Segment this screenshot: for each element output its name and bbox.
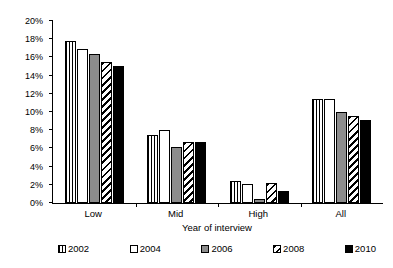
bar-2004-low — [77, 49, 88, 203]
bar-2006-all — [336, 112, 347, 203]
bar-2002-low — [65, 41, 76, 203]
x-axis-title: Year of interview — [52, 221, 382, 234]
bar-group — [53, 21, 136, 203]
y-axis-tick-label: 10% — [9, 108, 43, 117]
bar-2006-high — [254, 199, 265, 203]
y-axis-tick-label: 20% — [9, 17, 43, 26]
legend-label-2008: 2008 — [283, 244, 304, 254]
bar-2008-high — [266, 183, 277, 203]
bar-2006-mid — [171, 147, 182, 203]
y-axis-tick-label: 16% — [9, 53, 43, 62]
legend-label-2004: 2004 — [140, 244, 161, 254]
bar-2004-all — [324, 99, 335, 203]
bar-2010-low — [113, 66, 124, 203]
y-axis-tick-label: 8% — [9, 126, 43, 135]
y-axis-tick-label: 6% — [9, 144, 43, 153]
legend-swatch-2004 — [130, 245, 138, 253]
bar-2002-all — [312, 99, 323, 203]
x-axis-category-high: High — [217, 207, 300, 221]
bar-group — [136, 21, 219, 203]
legend-label-2002: 2002 — [68, 244, 89, 254]
y-axis-tick-label: 18% — [9, 35, 43, 44]
legend-swatch-2010 — [345, 245, 353, 253]
bar-2002-mid — [147, 135, 158, 203]
y-axis-tick-label: 14% — [9, 71, 43, 80]
legend-swatch-2006 — [201, 245, 209, 253]
legend-swatch-2008 — [273, 245, 281, 253]
legend-label-2010: 2010 — [355, 244, 376, 254]
bar-2008-mid — [183, 142, 194, 203]
x-axis-category-labels: LowMidHighAll — [52, 207, 382, 221]
x-axis-category-all: All — [300, 207, 383, 221]
y-axis-tick-label: 2% — [9, 180, 43, 189]
legend-item-2010[interactable]: 2010 — [345, 244, 376, 254]
legend-item-2008[interactable]: 2008 — [273, 244, 304, 254]
x-axis-category-mid: Mid — [135, 207, 218, 221]
y-axis-tick-label: 0% — [9, 199, 43, 208]
legend-item-2006[interactable]: 2006 — [201, 244, 232, 254]
bar-chart: Percentage receiving DI 0%2%4%6%8%10%12%… — [0, 0, 393, 268]
bar-2006-low — [89, 54, 100, 203]
y-axis-tick-label: 12% — [9, 89, 43, 98]
bar-2008-all — [348, 116, 359, 203]
plot-area: 0%2%4%6%8%10%12%14%16%18%20% — [52, 21, 383, 204]
bar-2004-mid — [159, 130, 170, 203]
x-axis-category-low: Low — [52, 207, 135, 221]
bar-2010-high — [278, 191, 289, 203]
bar-2004-high — [242, 184, 253, 203]
legend-item-2002[interactable]: 2002 — [58, 244, 89, 254]
legend-label-2006: 2006 — [211, 244, 232, 254]
bar-2008-low — [101, 62, 112, 203]
bar-2010-all — [360, 120, 371, 203]
bar-group — [218, 21, 301, 203]
bar-2010-mid — [195, 142, 206, 203]
legend-swatch-2002 — [58, 245, 66, 253]
bar-2002-high — [230, 181, 241, 203]
legend-item-2004[interactable]: 2004 — [130, 244, 161, 254]
bar-group — [301, 21, 384, 203]
chart-legend: 20022004200620082010 — [52, 241, 382, 257]
bar-groups — [53, 21, 383, 203]
y-axis-tick-label: 4% — [9, 162, 43, 171]
